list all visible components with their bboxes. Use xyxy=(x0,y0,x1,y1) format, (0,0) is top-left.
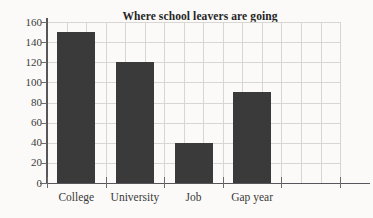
gridline-vertical xyxy=(321,22,322,183)
gridline-vertical xyxy=(301,22,302,183)
x-axis-label-college: College xyxy=(47,192,106,204)
x-axis-label-job: Job xyxy=(164,192,223,204)
y-axis-tick-mark xyxy=(41,42,47,43)
y-axis-tick-mark xyxy=(41,103,47,104)
y-axis-tick-label: 160 xyxy=(8,17,42,28)
x-axis-label-gap-year: Gap year xyxy=(223,192,282,204)
gridline-vertical xyxy=(106,22,107,183)
y-axis-tick-label: 40 xyxy=(8,137,42,148)
y-axis-tick-label: 0 xyxy=(8,178,42,189)
gridline-horizontal xyxy=(47,22,340,23)
chart-title: Where school leavers are going xyxy=(55,10,345,22)
bar-gap-year xyxy=(233,92,271,183)
y-axis-tick-label: 20 xyxy=(8,157,42,168)
y-axis-tick-labels: 020406080100120140160 xyxy=(4,0,42,218)
gridline-vertical xyxy=(281,22,282,183)
x-axis-tick-mark xyxy=(47,177,48,188)
y-axis-tick-label: 60 xyxy=(8,117,42,128)
x-axis-label-university: University xyxy=(106,192,165,204)
y-axis-tick-mark xyxy=(41,82,47,83)
y-axis-tick-mark xyxy=(41,22,47,23)
x-axis-tick-mark xyxy=(340,177,341,188)
x-axis-tick-mark xyxy=(106,177,107,188)
y-axis-tick-label: 100 xyxy=(8,77,42,88)
y-axis-tick-mark xyxy=(41,163,47,164)
bar-college xyxy=(57,32,95,183)
y-axis-tick-label: 120 xyxy=(8,57,42,68)
gridline-vertical xyxy=(164,22,165,183)
x-axis-tick-mark xyxy=(281,177,282,188)
gridline-vertical xyxy=(223,22,224,183)
y-axis-tick-label: 80 xyxy=(8,97,42,108)
bar-university xyxy=(116,62,154,183)
x-axis-tick-mark xyxy=(164,177,165,188)
y-axis-tick-label: 140 xyxy=(8,37,42,48)
bar-job xyxy=(175,143,213,183)
bar-chart-figure: Where school leavers are going 020406080… xyxy=(0,0,373,218)
x-axis-tick-mark xyxy=(223,177,224,188)
gridline-vertical xyxy=(340,22,341,183)
y-axis-tick-mark xyxy=(41,143,47,144)
y-axis-tick-mark xyxy=(41,62,47,63)
y-axis-tick-mark xyxy=(41,123,47,124)
